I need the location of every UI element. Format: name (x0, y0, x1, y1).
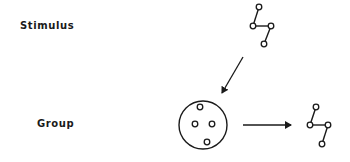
group-member-node (192, 121, 198, 127)
group-member-node (197, 104, 203, 110)
stimulus-node (256, 4, 262, 10)
output-node (319, 141, 325, 147)
output-node (313, 104, 319, 110)
output-node (307, 122, 313, 128)
stimulus-node (250, 23, 256, 29)
diagram-canvas (0, 0, 350, 162)
stimulus-to-group-arrow (222, 57, 243, 93)
group-member-node (204, 139, 210, 145)
arrows (222, 57, 291, 125)
output-structure (307, 104, 331, 147)
group-member-node (209, 121, 215, 127)
output-node (325, 122, 331, 128)
stimulus-structure (250, 4, 274, 47)
stimulus-node (268, 23, 274, 29)
group-circle (179, 101, 227, 149)
stimulus-node (261, 41, 267, 47)
